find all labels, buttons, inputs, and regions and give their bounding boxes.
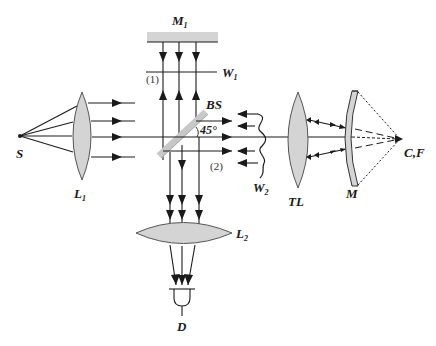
converging-arrows [171,274,193,285]
arm1-label: (1) [146,73,159,86]
focus-arrow [395,135,403,143]
wavefront-w1-label: W1 [222,65,238,82]
lens-l1-label: L1 [73,186,86,203]
wavefront-w2-label: W2 [253,180,269,197]
source-rays [20,106,77,152]
spherical-mirror-m [345,91,358,186]
arm2-label: (2) [210,160,223,173]
collimated-rays [88,103,172,157]
focus-lines [352,92,400,185]
output-arrows [166,160,203,220]
detector-label: D [176,319,187,334]
angle-arc [196,127,198,137]
arm1-down-arrows [159,52,200,62]
lens-l1 [73,92,91,180]
wavefront-w2 [258,114,266,178]
source-point [18,134,22,138]
arm2-return-rays [238,114,258,163]
mirror-m1-label: M1 [171,13,188,30]
interferometer-diagram: S L1 M1 W1 (1) [0,0,436,346]
collimated-ray-arrows [112,99,122,161]
beam-splitter-label: BS [205,97,222,112]
arm2-left-arrows [237,110,247,167]
detector [169,289,195,316]
mirror-m-label: M [345,186,358,201]
tube-lens-tl [288,92,308,188]
arm2-right-arrows [222,117,232,155]
focus-label: C,F [404,145,425,160]
tube-lens-label: TL [288,194,304,209]
lens-l2-label: L2 [235,226,248,243]
source-label: S [16,146,23,161]
arm1-up-arrows [159,90,200,100]
angle-label: 45° [199,123,217,137]
lens-l2 [136,223,232,244]
reference-mirror-m1 [147,32,218,42]
